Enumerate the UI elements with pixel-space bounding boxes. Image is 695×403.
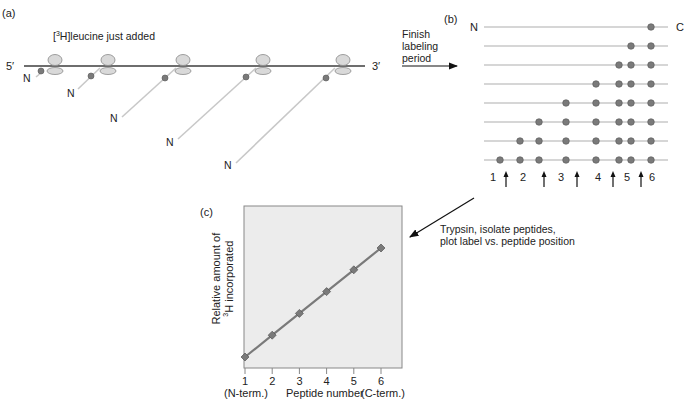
nascent-peptide-chains [36,68,335,163]
x-axis-n-term-note: (N-term.) [224,388,268,399]
ribosome-5 [335,55,351,75]
labeled-residue-dot [648,81,655,88]
y-axis-label-line-1: Relative amount of [210,219,223,339]
cleavage-arrow-icon [575,171,580,187]
labeled-residue-dot [593,100,600,107]
caption-line-3: period [402,52,438,64]
cleavage-arrow-icon [639,171,644,187]
labeled-residue-dot [616,81,623,88]
trypsin-caption: Trypsin, isolate peptides, plot label vs… [440,223,575,247]
diagram-graphics [0,0,695,403]
y-axis-label-line-2: 3H incorporated [223,219,236,339]
peptide-number-label: 4 [595,172,601,183]
labeled-residue-dot [517,138,524,145]
caption-line-1: Finish [402,28,438,40]
labeled-residue-dot [593,81,600,88]
caption-line-2: plot label vs. peptide position [440,235,575,247]
panel-a-label: (a) [2,8,15,19]
labeled-residue-dot [628,157,635,164]
labeled-residue-dot [563,119,570,126]
cleavage-arrow-icon [504,171,509,187]
ribosomes [47,55,351,75]
peptide-number-label: 6 [649,172,655,183]
labeled-residue-dot [628,138,635,145]
x-tick-label: 6 [378,376,384,387]
labeled-residue-dot [628,81,635,88]
panel-c-label: (c) [200,207,213,218]
labeled-residue-dot [593,119,600,126]
labeled-residue-dot [536,157,543,164]
labeled-residue-dot [628,119,635,126]
labeled-residue-dot [616,138,623,145]
labeled-residue-dot [648,100,655,107]
peptide-number-label: 3 [558,172,564,183]
x-tick-label: 5 [351,376,357,387]
labeled-residue-dot [616,62,623,69]
x-tick-label: 3 [296,376,302,387]
labeled-residue-dot [628,62,635,69]
labeled-residue-dot [616,157,623,164]
caption-line-1: Trypsin, isolate peptides, [440,223,575,235]
labeled-residue-dot [648,43,655,50]
ribosome-2 [100,55,116,75]
caption-line-2: labeling [402,40,438,52]
c-terminus-label-b: C [676,22,684,33]
labeled-residue-dot [648,138,655,145]
panel-b-label: (b) [444,14,457,25]
three-prime-label: 3′ [372,61,380,72]
peptide-number-label: 2 [520,172,526,183]
labeled-residue-dot [616,100,623,107]
labeled-residue-dot [536,119,543,126]
x-axis-c-term-note: (C-term.) [361,388,405,399]
ribosome-1 [47,55,63,75]
y-axis-label: Relative amount of 3H incorporated [210,219,235,339]
labeled-residue-dot [648,119,655,126]
completed-chain-dots [497,24,655,164]
ribosome-4 [255,55,271,75]
completed-chains [484,27,668,160]
labeled-residue-dot [563,157,570,164]
x-tick-label: 4 [324,376,330,387]
n-terminus-label-5: N [224,160,232,171]
n-terminus-label-3: N [110,113,118,124]
x-axis-label: Peptide number [286,388,364,399]
labeled-residue-dot [517,157,524,164]
ribosome-3 [175,55,191,75]
n-terminus-label-b: N [470,22,478,33]
labeled-residue-dot [593,138,600,145]
labeled-residue-dot [563,100,570,107]
plot-area [244,206,402,368]
x-tick-label: 1 [242,376,248,387]
labeled-residue-dot [648,157,655,164]
labeled-residue-dot [593,157,600,164]
labeled-residue-dot [648,62,655,69]
labeled-residue-dot [616,119,623,126]
panel-a-title: [3H]leucine just added [53,31,155,42]
labeled-residue-dot [536,138,543,145]
x-tick-label: 2 [269,376,275,387]
peptide-number-label: 5 [624,172,630,183]
labeled-residue-dot [628,43,635,50]
labeled-residue-dot [648,24,655,31]
x-axis-ticks [245,368,381,374]
five-prime-label: 5′ [6,61,14,72]
n-terminus-label-2: N [67,88,75,99]
peptide-number-label: 1 [490,172,496,183]
labeled-residue-dot [628,100,635,107]
cleavage-arrow-icon [611,171,616,187]
finish-labeling-caption: Finish labeling period [402,28,438,64]
labeled-residue-dot [563,138,570,145]
n-terminus-label-4: N [166,137,174,148]
cleavage-arrow-icon [542,171,547,187]
n-terminus-label-1: N [23,73,31,84]
labeled-residue-dot [497,157,504,164]
